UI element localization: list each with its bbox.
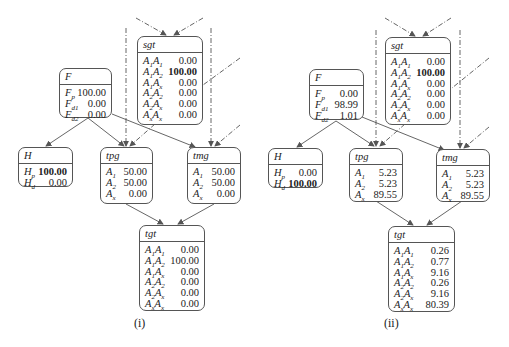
state-row: A1A10.00 bbox=[391, 56, 445, 67]
node-title: sgt bbox=[138, 37, 202, 53]
state-label: Ax bbox=[442, 190, 452, 201]
node-tmg-i: tmg A150.00A250.00Ax0.00 bbox=[187, 147, 241, 204]
state-value: 0.00 bbox=[427, 78, 445, 89]
state-row: A1Ax0.00 bbox=[391, 78, 445, 89]
state-label: Fd2 bbox=[315, 110, 328, 121]
node-H-i: H Hp100.00Hd0.00 bbox=[18, 147, 73, 187]
node-sgt-ii: sgt A1A10.00A1A2100.00A1Ax0.00A2A20.00A2… bbox=[385, 37, 451, 125]
state-row: A2A20.00 bbox=[145, 276, 199, 287]
state-row: Ax89.55 bbox=[442, 190, 484, 201]
state-row: Hp100.00 bbox=[24, 166, 67, 177]
state-label: Ax bbox=[355, 189, 365, 200]
node-rows: Fp100.00Fd10.00Fd20.00 bbox=[60, 85, 111, 121]
state-label: A1 bbox=[355, 167, 365, 178]
state-label: A2A2 bbox=[394, 277, 414, 288]
state-label: A1A2 bbox=[394, 256, 414, 267]
state-row: A1A2100.00 bbox=[391, 67, 445, 78]
state-label: Ax bbox=[193, 188, 203, 199]
node-rows: A1A10.00A1A2100.00A1Ax0.00A2A20.00A2Ax0.… bbox=[140, 242, 204, 311]
node-rows: Fp0.00Fd198.99Fd21.01 bbox=[310, 86, 363, 122]
state-label: A2 bbox=[106, 177, 116, 188]
state-value: 0.00 bbox=[181, 287, 199, 298]
state-value: 0.00 bbox=[299, 167, 317, 178]
node-rows: Hp100.00Hd0.00 bbox=[19, 164, 72, 190]
state-label: A2 bbox=[355, 178, 365, 189]
caption-i: (i) bbox=[134, 316, 145, 331]
state-label: Fp bbox=[315, 88, 325, 99]
state-row: Ax89.55 bbox=[355, 189, 397, 200]
state-row: Fd198.99 bbox=[315, 99, 358, 110]
state-value: 100.00 bbox=[77, 87, 106, 98]
state-label: A1 bbox=[193, 166, 203, 177]
state-value: 0.00 bbox=[427, 88, 445, 99]
state-row: A1A10.26 bbox=[394, 245, 449, 256]
state-label: A1A1 bbox=[145, 244, 165, 255]
state-value: 50.00 bbox=[211, 177, 235, 188]
node-title: H bbox=[269, 149, 322, 165]
state-label: A2Ax bbox=[394, 288, 413, 299]
state-row: A1A2100.00 bbox=[145, 255, 199, 266]
node-tgt-ii: tgt A1A10.26A1A20.77A1Ax9.16A2A20.26A2Ax… bbox=[388, 226, 455, 312]
node-tpg-ii: tpg A15.23A25.23Ax89.55 bbox=[349, 148, 403, 202]
node-title: F bbox=[60, 69, 111, 85]
state-row: A1A10.00 bbox=[145, 244, 199, 255]
state-row: A25.23 bbox=[442, 179, 484, 190]
state-row: A150.00 bbox=[193, 166, 235, 177]
state-value: 5.23 bbox=[379, 167, 397, 178]
state-value: 0.00 bbox=[179, 87, 197, 98]
state-label: A1 bbox=[442, 168, 452, 179]
state-value: 0.00 bbox=[88, 109, 106, 120]
node-tmg-ii: tmg A15.23A25.23Ax89.55 bbox=[436, 149, 490, 202]
state-row: A15.23 bbox=[442, 168, 484, 179]
state-row: Hd0.00 bbox=[24, 177, 67, 188]
state-value: 0.00 bbox=[181, 276, 199, 287]
state-value: 0.00 bbox=[427, 99, 445, 110]
state-row: A250.00 bbox=[106, 177, 147, 188]
state-label: A1Ax bbox=[391, 78, 410, 89]
state-label: Fp bbox=[65, 87, 75, 98]
state-row: A2Ax0.00 bbox=[391, 99, 445, 110]
state-row: A150.00 bbox=[106, 166, 147, 177]
state-value: 0.00 bbox=[129, 188, 147, 199]
state-row: Fd20.00 bbox=[65, 109, 106, 120]
state-value: 100.00 bbox=[168, 66, 197, 77]
state-value: 0.00 bbox=[179, 77, 197, 88]
node-title: tmg bbox=[437, 150, 489, 166]
node-title: F bbox=[310, 70, 363, 86]
state-label: A1Ax bbox=[394, 267, 413, 278]
state-value: 98.99 bbox=[334, 99, 358, 110]
node-rows: A1A10.00A1A2100.00A1Ax0.00A2A20.00A2Ax0.… bbox=[138, 53, 202, 122]
state-value: 100.00 bbox=[170, 255, 199, 266]
state-row: Fp100.00 bbox=[65, 87, 106, 98]
state-value: 80.39 bbox=[425, 299, 449, 310]
state-value: 89.55 bbox=[373, 189, 397, 200]
state-value: 5.23 bbox=[379, 178, 397, 189]
node-rows: Hp0.00Hd100.00 bbox=[269, 165, 322, 191]
state-row: A2Ax0.00 bbox=[145, 287, 199, 298]
state-row: AxAx80.39 bbox=[394, 299, 449, 310]
state-row: A2A20.26 bbox=[394, 277, 449, 288]
state-value: 0.00 bbox=[181, 244, 199, 255]
state-label: A2Ax bbox=[391, 99, 410, 110]
node-title: tpg bbox=[101, 148, 152, 164]
state-row: AxAx0.00 bbox=[391, 110, 445, 121]
node-tgt-i: tgt A1A10.00A1A2100.00A1Ax0.00A2A20.00A2… bbox=[139, 225, 205, 311]
state-label: A1A2 bbox=[145, 255, 165, 266]
state-row: A1A10.00 bbox=[143, 55, 197, 66]
state-value: 100.00 bbox=[288, 178, 317, 189]
state-label: A2A2 bbox=[391, 88, 411, 99]
node-rows: A150.00A250.00Ax0.00 bbox=[101, 164, 152, 200]
state-row: Ax0.00 bbox=[193, 188, 235, 199]
state-label: A2 bbox=[193, 177, 203, 188]
state-value: 0.00 bbox=[179, 98, 197, 109]
state-value: 0.00 bbox=[427, 56, 445, 67]
state-label: A1A1 bbox=[391, 56, 411, 67]
state-label: A2Ax bbox=[145, 287, 164, 298]
state-value: 5.23 bbox=[466, 168, 484, 179]
state-value: 50.00 bbox=[123, 166, 147, 177]
state-label: Fd2 bbox=[65, 109, 78, 120]
state-value: 0.00 bbox=[49, 177, 67, 188]
state-value: 9.16 bbox=[431, 288, 449, 299]
state-row: A1A20.77 bbox=[394, 256, 449, 267]
state-label: A1A2 bbox=[143, 66, 163, 77]
